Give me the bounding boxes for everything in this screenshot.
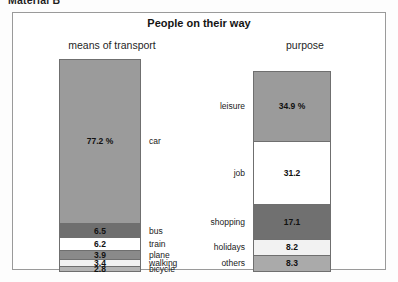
bar-segment-value: 77.2 % (87, 137, 113, 146)
bar-segment-job: 31.2job (253, 141, 331, 204)
chart-title: People on their way (13, 17, 385, 29)
bar-segment-label: car (149, 137, 161, 146)
chart-frame: People on their way means of transport p… (12, 12, 386, 270)
bar-segment-value: 31.2 (284, 169, 301, 178)
bar-segment-value: 6.5 (94, 227, 106, 236)
bar-segment-car: 77.2 %car (59, 59, 141, 223)
bar-segment-label: job (234, 169, 245, 178)
bar-segment-label: holidays (214, 243, 245, 252)
bar-segment-train: 6.2train (59, 237, 141, 250)
bar-segment-value: 2.8 (94, 265, 106, 274)
panel-title-purpose: purpose (249, 39, 361, 51)
bar-segment-leisure: 34.9 %leisure (253, 71, 331, 141)
bar-segment-value: 6.2 (94, 240, 106, 249)
bar-segment-label: bicycle (149, 265, 175, 274)
bar-segment-bus: 6.5bus (59, 223, 141, 237)
bar-segment-others: 8.3others (253, 255, 331, 272)
bar-segment-label: leisure (220, 102, 245, 111)
bar-segment-value: 8.2 (286, 243, 298, 252)
bar-segment-value: 34.9 % (279, 102, 305, 111)
bar-segment-label: others (221, 259, 245, 268)
panel-title-means-of-transport: means of transport (47, 39, 177, 51)
scanned-page: Material B People on their way means of … (0, 0, 398, 282)
bar-segment-shopping: 17.1shopping (253, 204, 331, 238)
bar-segment-value: 17.1 (284, 218, 301, 227)
stacked-bar-purpose: 34.9 %leisure31.2job17.1shopping8.2holid… (253, 71, 331, 272)
bar-segment-value: 8.3 (286, 259, 298, 268)
material-heading: Material B (8, 0, 60, 5)
stacked-bar-means-of-transport: 77.2 %car6.5bus6.2train3.9plane3.4walkin… (59, 59, 141, 272)
bar-segment-label: train (149, 240, 166, 249)
bar-segment-holidays: 8.2holidays (253, 239, 331, 256)
bar-segment-label: shopping (210, 218, 245, 227)
bar-segment-label: bus (149, 227, 163, 236)
bar-segment-bicycle: 2.8bicycle (59, 266, 141, 272)
